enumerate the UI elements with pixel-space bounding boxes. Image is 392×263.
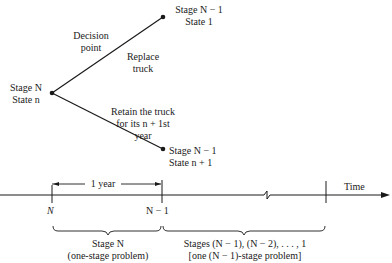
upper-state: State 1 [168, 16, 230, 28]
replace-truck-label: Replace truck [114, 51, 172, 75]
root-state: State n [4, 94, 48, 106]
upper-stage: Stage N − 1 [168, 4, 230, 16]
upper-node [161, 15, 166, 20]
upper-node-label: Stage N − 1 State 1 [168, 4, 230, 28]
remaining-stages-caption: Stages (N − 1), (N − 2), . . . , 1 [one … [170, 238, 320, 262]
tick-label-n: N [47, 205, 54, 217]
diagram-lines [0, 0, 392, 263]
lower-state: State n + 1 [169, 157, 217, 169]
year-arrow-left [53, 182, 59, 186]
brace-remaining-stages [163, 226, 325, 235]
year-arrow-right [155, 182, 161, 186]
stage-n-caption: Stage N (one-stage problem) [48, 238, 168, 262]
brace-stage-n [53, 226, 161, 235]
root-node-label: Stage N State n [4, 82, 48, 106]
axis-break-mark [264, 191, 270, 199]
lower-node [161, 147, 166, 152]
root-stage: Stage N [4, 82, 48, 94]
tick-label-n-minus-1: N − 1 [146, 205, 169, 217]
axis-arrowhead [381, 192, 390, 198]
lower-node-label: Stage N − 1 State n + 1 [169, 145, 217, 169]
decision-point-label: Decision point [60, 30, 122, 54]
axis-label: Time [344, 181, 365, 193]
root-node [50, 91, 55, 96]
lower-stage: Stage N − 1 [169, 145, 217, 157]
interval-label: 1 year [85, 178, 121, 190]
retain-truck-label: Retain the truck for its n + 1st year [100, 106, 186, 142]
